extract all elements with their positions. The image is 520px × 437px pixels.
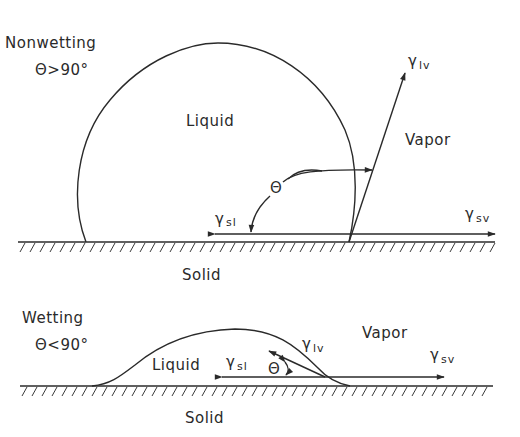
hatch-stroke — [402, 387, 407, 396]
hatch-stroke — [300, 243, 305, 252]
hatch-stroke — [370, 243, 375, 252]
nonwetting-theta-arc-to-ground — [251, 196, 270, 232]
hatch-stroke — [232, 387, 237, 396]
hatch-stroke — [450, 243, 455, 252]
svg-text:γ: γ — [226, 353, 235, 371]
hatch-stroke — [22, 387, 27, 396]
hatch-stroke — [302, 387, 307, 396]
wetting-vapor-label: Vapor — [362, 324, 408, 342]
hatch-stroke — [50, 243, 55, 252]
nonwetting-title: Nonwetting — [5, 34, 96, 52]
hatch-stroke — [382, 387, 387, 396]
hatch-stroke — [272, 387, 277, 396]
hatch-stroke — [262, 387, 267, 396]
nonwetting-gamma-lv-arrow — [349, 73, 405, 242]
hatch-stroke — [100, 243, 105, 252]
wetting-solid-hatching — [22, 387, 487, 396]
hatch-stroke — [52, 387, 57, 396]
hatch-stroke — [340, 243, 345, 252]
hatch-stroke — [482, 387, 487, 396]
hatch-stroke — [480, 243, 485, 252]
hatch-stroke — [420, 243, 425, 252]
hatch-stroke — [60, 243, 65, 252]
hatch-stroke — [212, 387, 217, 396]
nonwetting-liquid-label: Liquid — [186, 112, 234, 130]
hatch-stroke — [260, 243, 265, 252]
hatch-stroke — [160, 243, 165, 252]
hatch-stroke — [30, 243, 35, 252]
hatch-stroke — [152, 387, 157, 396]
nonwetting-solid-label: Solid — [182, 266, 221, 284]
hatch-stroke — [392, 387, 397, 396]
svg-text:sv: sv — [476, 212, 490, 225]
hatch-stroke — [70, 243, 75, 252]
hatch-stroke — [210, 243, 215, 252]
hatch-stroke — [80, 243, 85, 252]
hatch-stroke — [430, 243, 435, 252]
hatch-stroke — [62, 387, 67, 396]
wetting-solid-label: Solid — [185, 409, 224, 427]
hatch-stroke — [172, 387, 177, 396]
hatch-stroke — [162, 387, 167, 396]
hatch-stroke — [250, 243, 255, 252]
hatch-stroke — [390, 243, 395, 252]
hatch-stroke — [130, 243, 135, 252]
hatch-stroke — [20, 243, 25, 252]
hatch-stroke — [170, 243, 175, 252]
nonwetting-panel: Nonwetting Θ>90° Liquid Vapor γ lv γ sl … — [5, 34, 495, 284]
hatch-stroke — [422, 387, 427, 396]
hatch-stroke — [90, 243, 95, 252]
nonwetting-theta-arc-to-lv — [283, 170, 372, 182]
hatch-stroke — [490, 243, 495, 252]
hatch-stroke — [92, 387, 97, 396]
wetting-theta-arc — [285, 362, 288, 375]
hatch-stroke — [432, 387, 437, 396]
hatch-stroke — [462, 387, 467, 396]
hatch-stroke — [472, 387, 477, 396]
hatch-stroke — [242, 387, 247, 396]
hatch-stroke — [102, 387, 107, 396]
wetting-theta-label: Θ — [268, 360, 280, 378]
svg-text:sl: sl — [226, 216, 237, 229]
nonwetting-theta-label: Θ — [270, 179, 282, 197]
hatch-stroke — [42, 387, 47, 396]
wetting-gamma-sl-label: γ sl — [226, 353, 248, 373]
hatch-stroke — [452, 387, 457, 396]
hatch-stroke — [110, 243, 115, 252]
hatch-stroke — [182, 387, 187, 396]
hatch-stroke — [40, 243, 45, 252]
hatch-stroke — [380, 243, 385, 252]
hatch-stroke — [412, 387, 417, 396]
hatch-stroke — [440, 243, 445, 252]
diagram-canvas: Nonwetting Θ>90° Liquid Vapor γ lv γ sl … — [0, 0, 520, 437]
svg-text:γ: γ — [465, 205, 474, 223]
hatch-stroke — [240, 243, 245, 252]
hatch-stroke — [222, 387, 227, 396]
hatch-stroke — [142, 387, 147, 396]
hatch-stroke — [410, 243, 415, 252]
nonwetting-gamma-lv-label: γ lv — [408, 52, 431, 72]
hatch-stroke — [330, 243, 335, 252]
hatch-stroke — [120, 243, 125, 252]
svg-text:sl: sl — [237, 360, 248, 373]
hatch-stroke — [470, 243, 475, 252]
hatch-stroke — [460, 243, 465, 252]
hatch-stroke — [270, 243, 275, 252]
hatch-stroke — [362, 387, 367, 396]
hatch-stroke — [442, 387, 447, 396]
wetting-gamma-sv-label: γ sv — [430, 346, 455, 366]
svg-text:lv: lv — [419, 59, 431, 72]
hatch-stroke — [190, 243, 195, 252]
hatch-stroke — [312, 387, 317, 396]
svg-text:sv: sv — [441, 353, 455, 366]
hatch-stroke — [290, 243, 295, 252]
hatch-stroke — [220, 243, 225, 252]
hatch-stroke — [280, 243, 285, 252]
hatch-stroke — [372, 387, 377, 396]
hatch-stroke — [132, 387, 137, 396]
svg-text:lv: lv — [313, 342, 325, 355]
hatch-stroke — [122, 387, 127, 396]
hatch-stroke — [252, 387, 257, 396]
hatch-stroke — [192, 387, 197, 396]
contact-angle-diagram: Nonwetting Θ>90° Liquid Vapor γ lv γ sl … — [0, 0, 520, 437]
